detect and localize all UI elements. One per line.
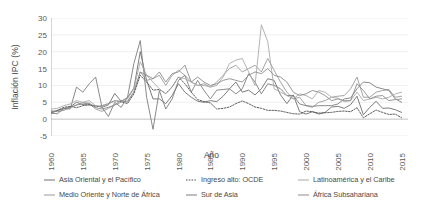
legend-label: Sur de Asia [201, 190, 238, 199]
legend-item[interactable]: Ingreso alto: OCDE [186, 175, 298, 184]
data-series-line [51, 25, 402, 109]
y-tick-label: 20 [21, 47, 47, 56]
legend-line-swatch-icon [186, 191, 197, 199]
legend-label: Latinoamérica y el Caribe [313, 175, 395, 184]
legend-label: Ingreso alto: OCDE [201, 175, 263, 184]
plot-area [51, 18, 408, 136]
legend-line-swatch-icon [44, 191, 55, 199]
legend-item[interactable]: Sur de Asia [186, 190, 298, 199]
legend-item[interactable]: Asia Oriental y el Pacífico [44, 175, 186, 184]
y-axis-ticks: -5051015202530 [19, 18, 47, 136]
plot-svg [51, 18, 408, 136]
y-tick-label: 15 [21, 64, 47, 73]
legend-line-swatch-icon [298, 176, 309, 184]
legend-label: Asia Oriental y el Pacífico [59, 175, 141, 184]
y-tick-label: 30 [21, 14, 47, 23]
x-axis-label: Año [0, 150, 423, 160]
y-tick-label: 10 [21, 81, 47, 90]
y-tick-label: 0 [21, 115, 47, 124]
legend-line-swatch-icon [298, 191, 309, 199]
data-series-line [51, 41, 402, 130]
chart-legend: Asia Oriental y el PacíficoIngreso alto:… [44, 172, 389, 202]
inflation-line-chart: Inflación IPC (%) -5051015202530 1960196… [0, 0, 423, 207]
legend-label: África Subsahariana [313, 190, 378, 199]
legend-item[interactable]: Medio Oriente y Norte de África [44, 190, 186, 199]
legend-item[interactable]: África Subsahariana [298, 190, 408, 199]
y-tick-label: -5 [21, 132, 47, 141]
y-tick-label: 25 [21, 30, 47, 39]
legend-line-swatch-icon [44, 176, 55, 184]
y-tick-label: 5 [21, 98, 47, 107]
legend-label: Medio Oriente y Norte de África [59, 190, 160, 199]
legend-line-swatch-icon [186, 176, 197, 184]
legend-item[interactable]: Latinoamérica y el Caribe [298, 175, 408, 184]
data-series-line [51, 75, 402, 117]
